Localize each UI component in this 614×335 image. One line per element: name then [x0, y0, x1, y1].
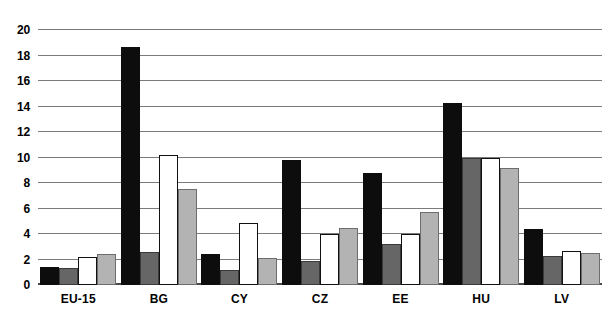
y-axis-tick-label: 14 — [4, 100, 30, 114]
y-axis-tick-label: 18 — [4, 49, 30, 63]
x-axis-category-label: BG — [150, 292, 168, 306]
bar — [401, 234, 420, 285]
bar — [462, 158, 481, 286]
y-axis-tick-label: 16 — [4, 74, 30, 88]
bar — [481, 158, 500, 286]
bar — [443, 103, 462, 285]
bar — [301, 261, 320, 285]
bar — [420, 212, 439, 285]
bar — [543, 256, 562, 285]
x-axis-category-label: EE — [392, 292, 408, 306]
bar — [59, 268, 78, 285]
bar — [382, 244, 401, 285]
bar — [581, 253, 600, 285]
bar — [320, 234, 339, 285]
bar-group — [201, 30, 277, 285]
y-axis-tick-label: 10 — [4, 151, 30, 165]
bar — [201, 254, 220, 285]
x-axis-category-label: HU — [472, 292, 490, 306]
bars-layer — [38, 30, 602, 285]
y-axis-tick-label: 4 — [4, 227, 30, 241]
bar — [220, 270, 239, 285]
bar — [524, 229, 543, 285]
bar — [562, 251, 581, 285]
bar — [78, 257, 97, 285]
bar — [258, 258, 277, 285]
bar — [140, 252, 159, 285]
bar-group — [443, 30, 519, 285]
bar-group — [121, 30, 197, 285]
bar — [178, 189, 197, 285]
y-axis-tick-label: 2 — [4, 253, 30, 267]
bar-group — [40, 30, 116, 285]
bar — [159, 155, 178, 285]
bar — [40, 267, 59, 285]
bar-group — [363, 30, 439, 285]
y-axis-tick-label: 8 — [4, 176, 30, 190]
y-axis-tick-label: 20 — [4, 23, 30, 37]
bar — [339, 228, 358, 285]
bar — [239, 223, 258, 285]
bar — [97, 254, 116, 285]
y-axis-tick-label: 0 — [4, 278, 30, 292]
y-axis-tick-label: 6 — [4, 202, 30, 216]
bar — [282, 160, 301, 285]
bar-group — [524, 30, 600, 285]
y-axis-tick-label: 12 — [4, 125, 30, 139]
bar — [121, 47, 140, 285]
bar — [500, 168, 519, 285]
bar — [363, 173, 382, 285]
bar-group — [282, 30, 358, 285]
bar-chart: 02468101214161820EU-15BGCYCZEEHULV — [0, 0, 614, 335]
x-axis-category-label: CY — [231, 292, 248, 306]
x-axis-category-label: CZ — [312, 292, 328, 306]
x-axis-category-label: LV — [554, 292, 569, 306]
x-axis-category-label: EU-15 — [61, 292, 96, 306]
